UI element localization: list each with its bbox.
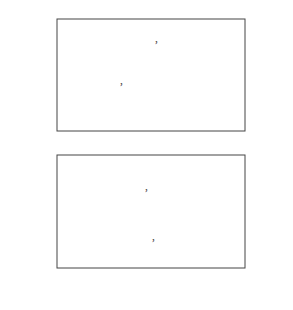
mobility-diffusivity-chart: , , , , — [0, 0, 293, 310]
si-plot: , , — [57, 19, 245, 131]
si-mup-label: , — [120, 74, 123, 87]
gaas-plot-frame — [57, 155, 245, 268]
gaas-plot: , , — [57, 155, 245, 268]
si-plot-frame — [57, 19, 245, 131]
gaas-mup-label: , — [152, 230, 155, 243]
gaas-mun-label: , — [145, 180, 148, 193]
si-mun-label: , — [155, 32, 158, 45]
